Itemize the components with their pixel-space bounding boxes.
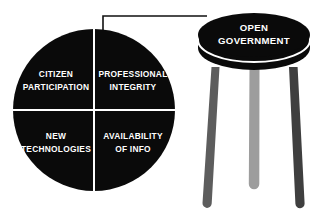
quadrant-wheel-group: CITIZEN PARTICIPATION PROFESSIONAL INTEG… xyxy=(13,29,175,191)
stool-legs-group xyxy=(202,67,304,208)
middle-leg xyxy=(249,68,260,189)
stool-seat-group: OPEN GOVERNMENT xyxy=(198,13,310,70)
quadrant-label-line1: CITIZEN xyxy=(39,69,73,79)
quadrant-label-line2: TECHNOLOGIES xyxy=(21,144,91,154)
right-leg xyxy=(289,67,305,208)
quadrant-label-line1: NEW xyxy=(46,131,66,141)
quadrant-label-line2: PARTICIPATION xyxy=(23,82,90,92)
quadrant-label-line1: PROFESSIONAL xyxy=(98,69,167,79)
quadrant-label-line2: OF INFO xyxy=(115,144,151,154)
quadrant-label-line2: INTEGRITY xyxy=(110,82,157,92)
stool-label-line2: GOVERNMENT xyxy=(218,35,290,46)
quadrant-label-line1: AVAILABILITY xyxy=(103,131,163,141)
open-government-infographic: OPEN GOVERNMENT CITIZEN PARTICIPATION PR… xyxy=(0,0,314,221)
infographic-canvas: OPEN GOVERNMENT CITIZEN PARTICIPATION PR… xyxy=(0,0,314,221)
stool-label-line1: OPEN xyxy=(240,22,268,33)
left-leg xyxy=(202,67,219,208)
